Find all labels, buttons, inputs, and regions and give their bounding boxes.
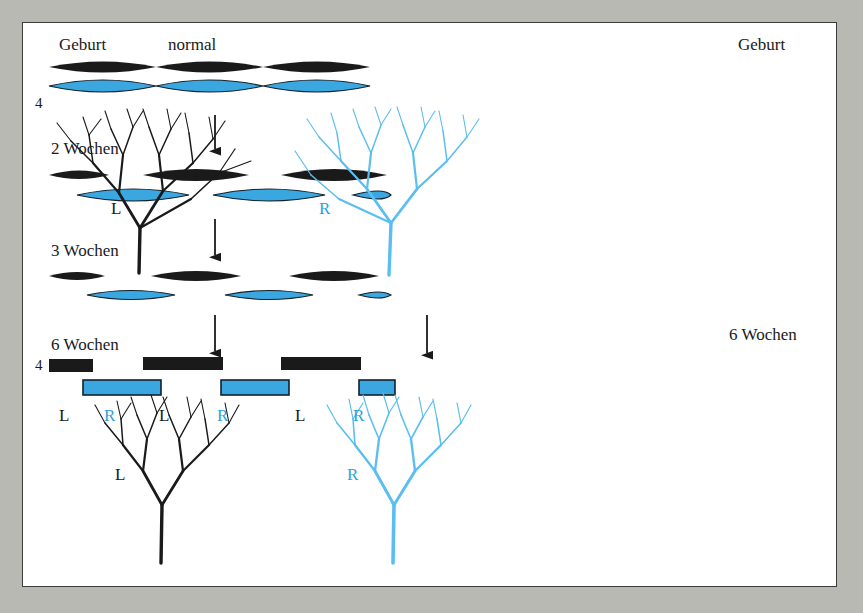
stage-geburt-bands xyxy=(49,62,381,93)
left-panel-condition: normal xyxy=(168,35,216,55)
stage-label-6wochen: 6 Wochen xyxy=(51,335,119,355)
right-panel-title-6wochen: 6 Wochen xyxy=(729,325,797,345)
left-panel-title: Geburt xyxy=(59,35,106,55)
right-panel-title-geburt: Geburt xyxy=(738,35,785,55)
eye-label-r-1: R xyxy=(104,406,115,426)
eye-label-r-3: R xyxy=(353,406,364,426)
layer-label-bottom: 4 xyxy=(35,357,43,374)
arbor-label-r-bottom: R xyxy=(347,465,358,485)
stage-2wochen-bands xyxy=(49,169,391,201)
eye-label-r-2: R xyxy=(217,406,228,426)
arbor-label-l-top: L xyxy=(111,199,121,219)
layer-label-top: 4 xyxy=(35,95,43,112)
stage-3wochen-bands xyxy=(49,271,391,300)
eye-label-l-3: L xyxy=(295,406,305,426)
diagram-canvas xyxy=(23,23,838,588)
arbor-geburt-right xyxy=(295,107,479,275)
eye-label-l-1: L xyxy=(59,406,69,426)
eye-label-l-2: L xyxy=(159,406,169,426)
arbor-label-r-top: R xyxy=(319,199,330,219)
arbor-label-l-bottom: L xyxy=(115,465,125,485)
figure-frame: Geburt normal 2 Wochen 3 Wochen 6 Wochen… xyxy=(22,22,837,587)
stage-label-3wochen: 3 Wochen xyxy=(51,241,119,261)
stage-6wochen-bands xyxy=(49,357,395,395)
stage-label-2wochen: 2 Wochen xyxy=(51,139,119,159)
